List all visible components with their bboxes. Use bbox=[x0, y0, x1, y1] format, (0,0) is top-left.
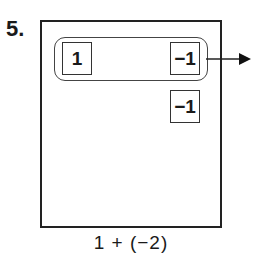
problem-number: 5. bbox=[6, 17, 24, 41]
tile-positive-one: 1 bbox=[62, 42, 92, 75]
tile-negative-one-remaining: −1 bbox=[170, 90, 200, 123]
arrow-right-icon bbox=[206, 52, 254, 66]
tile-negative-one-grouped: −1 bbox=[170, 42, 200, 75]
expression-caption: 1 + (−2) bbox=[0, 232, 262, 254]
